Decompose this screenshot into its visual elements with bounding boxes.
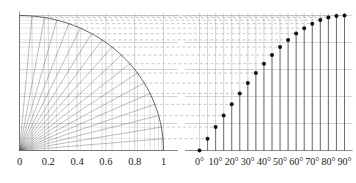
right-x-tick-label: 30° <box>241 156 255 167</box>
left-x-tick-label: 0.8 <box>128 156 141 167</box>
right-x-tick-label: 10° <box>209 156 223 167</box>
right-x-tick-labels: 0°10°20°30°40°50°60°70°80°90° <box>195 156 352 167</box>
sine-construction-figure: 00.20.40.60.81 0°10°20°30°40°50°60°70°80… <box>0 0 356 183</box>
left-x-tick-label: 0.6 <box>99 156 112 167</box>
right-x-tick-label: 0° <box>195 156 204 167</box>
right-x-tick-label: 90° <box>338 156 352 167</box>
right-x-tick-label: 70° <box>305 156 319 167</box>
right-x-tick-label: 40° <box>257 156 271 167</box>
left-x-tick-label: 0.4 <box>71 156 85 167</box>
right-x-tick-label: 20° <box>225 156 239 167</box>
left-x-tick-label: 0.2 <box>42 156 55 167</box>
right-x-tick-label: 50° <box>273 156 287 167</box>
right-x-tick-label: 60° <box>289 156 303 167</box>
left-x-tick-label: 0 <box>17 156 22 167</box>
figure-canvas: 00.20.40.60.81 0°10°20°30°40°50°60°70°80… <box>0 0 356 183</box>
left-x-tick-label: 1 <box>161 156 166 167</box>
right-x-tick-label: 80° <box>321 156 335 167</box>
